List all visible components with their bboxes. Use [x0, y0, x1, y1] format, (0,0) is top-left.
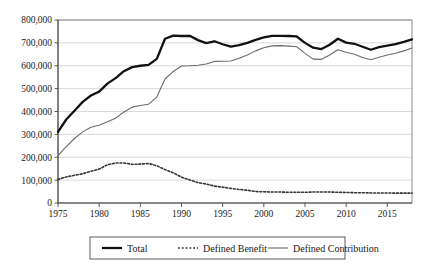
x-tick-label: 1985 [131, 209, 150, 219]
legend-label-defined-benefit: Defined Benefit [203, 243, 267, 254]
y-tick-label: 700,000 [21, 38, 52, 48]
y-tick-label: 300,000 [21, 130, 52, 140]
series-line-defined-contribution [58, 46, 412, 156]
series-line-defined-benefit [58, 163, 412, 193]
x-tick-label: 2000 [254, 209, 273, 219]
legend-label-defined-contribution: Defined Contribution [293, 243, 379, 254]
x-axis: 197519801985199019952000200520102015 [49, 20, 413, 219]
y-tick-label: 400,000 [21, 107, 52, 117]
x-tick-label: 2010 [337, 209, 356, 219]
y-axis: 0100,000200,000300,000400,000500,000600,… [21, 15, 58, 208]
series-line-total [58, 36, 412, 132]
x-tick-label: 2015 [378, 209, 397, 219]
x-tick-label: 1975 [49, 209, 68, 219]
x-tick-label: 1990 [172, 209, 191, 219]
y-tick-label: 500,000 [21, 84, 52, 94]
x-tick-label: 1980 [90, 209, 109, 219]
gridlines [58, 20, 412, 180]
series-lines [58, 36, 412, 194]
x-tick-label: 1995 [213, 209, 232, 219]
x-tick-label: 2005 [295, 209, 314, 219]
y-tick-label: 0 [47, 198, 52, 208]
chart-container: 0100,000200,000300,000400,000500,000600,… [0, 0, 427, 273]
y-tick-label: 100,000 [21, 176, 52, 186]
legend-label-total: Total [127, 243, 148, 254]
y-tick-label: 800,000 [21, 15, 52, 25]
line-chart: 0100,000200,000300,000400,000500,000600,… [0, 0, 427, 273]
y-tick-label: 600,000 [21, 61, 52, 71]
y-tick-label: 200,000 [21, 153, 52, 163]
chart-legend: TotalDefined BenefitDefined Contribution [90, 237, 379, 259]
